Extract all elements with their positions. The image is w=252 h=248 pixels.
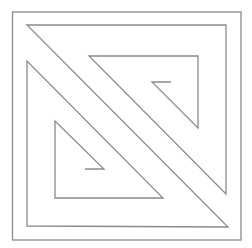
spiral-line [27,25,228,227]
diagram-canvas [0,0,252,248]
spiral-diagram [0,0,252,248]
